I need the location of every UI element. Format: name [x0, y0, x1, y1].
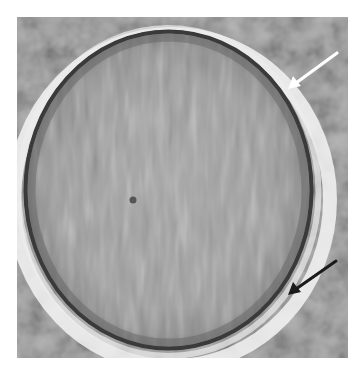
cell-granule	[130, 197, 137, 204]
micrograph	[0, 0, 364, 373]
